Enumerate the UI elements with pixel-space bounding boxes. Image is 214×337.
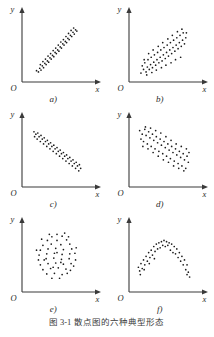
- subfigure-label-b: b): [107, 94, 214, 104]
- data-point: [56, 252, 58, 254]
- data-point: [42, 269, 44, 271]
- data-point: [62, 158, 64, 160]
- data-point: [66, 154, 68, 156]
- data-point: [60, 262, 62, 264]
- data-point: [55, 262, 57, 264]
- data-point: [179, 157, 181, 159]
- data-point: [181, 255, 183, 257]
- y-axis-label: y: [10, 214, 15, 224]
- data-point: [54, 252, 56, 254]
- data-point: [177, 168, 179, 170]
- data-point: [178, 252, 180, 254]
- data-point: [186, 264, 188, 266]
- data-point: [46, 146, 48, 148]
- scatter-plot-f: yxO: [107, 210, 213, 315]
- data-point: [147, 53, 149, 55]
- data-point: [178, 42, 180, 44]
- data-point: [45, 258, 47, 260]
- data-point: [41, 65, 43, 67]
- data-point: [168, 149, 170, 151]
- data-point: [156, 248, 158, 250]
- data-point: [50, 53, 52, 55]
- data-point: [41, 238, 43, 240]
- data-point: [75, 168, 77, 170]
- data-point: [184, 37, 186, 39]
- data-point: [46, 273, 48, 275]
- data-point: [183, 159, 185, 161]
- x-axis-label: x: [95, 294, 100, 304]
- data-point: [153, 258, 155, 260]
- data-point: [173, 160, 175, 162]
- data-point: [179, 260, 181, 262]
- data-point: [174, 59, 176, 61]
- data-point: [146, 66, 148, 68]
- data-point: [165, 64, 167, 66]
- data-point: [150, 72, 152, 74]
- data-point: [52, 150, 54, 152]
- subfigure-label-a: a): [0, 94, 107, 104]
- data-point: [166, 44, 168, 46]
- data-point: [58, 50, 60, 52]
- data-point: [55, 248, 57, 250]
- data-point: [137, 266, 139, 268]
- x-axis-label: x: [201, 84, 206, 94]
- data-point: [149, 64, 151, 66]
- data-point: [154, 64, 156, 66]
- data-point: [158, 62, 160, 64]
- data-point: [43, 67, 45, 69]
- data-point: [147, 252, 149, 254]
- data-point: [181, 39, 183, 41]
- data-point: [169, 158, 171, 160]
- data-point: [61, 258, 63, 260]
- data-point: [38, 136, 40, 138]
- data-point: [180, 146, 182, 148]
- figure-caption: 图 3-1散点图的六种典型形态: [0, 315, 213, 337]
- origin-label: O: [117, 188, 123, 198]
- data-point: [43, 143, 45, 145]
- data-point: [173, 246, 175, 248]
- data-point: [146, 260, 148, 262]
- data-point: [171, 34, 173, 36]
- data-point: [40, 135, 42, 137]
- data-point: [182, 264, 184, 266]
- y-axis-arrowhead: [126, 217, 131, 223]
- y-axis-label: y: [116, 214, 121, 224]
- data-point: [165, 52, 167, 54]
- data-point: [167, 161, 169, 163]
- data-point: [174, 50, 176, 52]
- data-point: [175, 37, 177, 39]
- data-point: [156, 52, 158, 54]
- data-point: [64, 155, 66, 157]
- data-point: [159, 138, 161, 140]
- data-point: [42, 61, 44, 63]
- data-point: [152, 139, 154, 141]
- data-point: [67, 38, 69, 40]
- data-point: [52, 50, 54, 52]
- data-point: [52, 266, 54, 268]
- data-point: [158, 150, 160, 152]
- data-point: [37, 132, 39, 134]
- data-point: [162, 159, 164, 161]
- data-point: [160, 144, 162, 146]
- data-point: [143, 128, 145, 130]
- data-point: [51, 236, 53, 238]
- data-point: [172, 152, 174, 154]
- data-point: [59, 46, 61, 48]
- data-point: [68, 33, 70, 35]
- data-point: [147, 59, 149, 61]
- data-point: [142, 146, 144, 148]
- data-point: [161, 42, 163, 44]
- data-point: [49, 57, 51, 59]
- data-point: [175, 248, 177, 250]
- data-point: [177, 48, 179, 50]
- data-point: [62, 43, 64, 45]
- y-axis-label: y: [116, 109, 121, 119]
- scatter-panel-b: yxOb): [107, 0, 214, 105]
- data-point: [73, 163, 75, 165]
- data-point: [138, 270, 140, 272]
- subfigure-label-f: f): [107, 304, 214, 314]
- data-point: [161, 153, 163, 155]
- data-point: [56, 147, 58, 149]
- data-point: [154, 148, 156, 150]
- data-point: [157, 155, 159, 157]
